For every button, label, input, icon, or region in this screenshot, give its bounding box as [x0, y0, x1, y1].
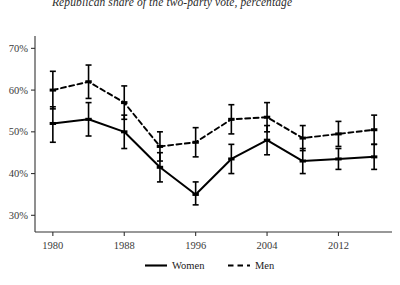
data-point-marker	[335, 132, 341, 135]
chart-legend: WomenMen	[145, 260, 275, 271]
x-tick-label: 2004	[257, 240, 279, 251]
data-point-marker	[228, 118, 234, 121]
data-point-marker	[85, 118, 91, 121]
data-point-marker	[157, 166, 163, 169]
chart-plot-area: 30%40%50%60%70% 19801988199620042012 Wom…	[0, 0, 400, 285]
series-line	[53, 82, 374, 147]
data-point-marker	[192, 141, 198, 144]
y-tick-label: 30%	[9, 210, 29, 221]
x-tick-label: 2012	[328, 240, 349, 251]
data-point-marker	[371, 155, 377, 158]
data-point-marker	[300, 160, 306, 163]
legend-item-men[interactable]: Men	[228, 260, 275, 271]
x-axis: 19801988199620042012	[35, 232, 392, 251]
y-tick-label: 40%	[9, 168, 29, 179]
legend-label: Men	[255, 260, 275, 271]
data-point-marker	[371, 128, 377, 131]
series-line	[53, 119, 374, 194]
series-men	[50, 65, 378, 161]
data-point-marker	[50, 89, 56, 92]
series-women	[50, 103, 378, 205]
data-point-marker	[157, 145, 163, 148]
y-tick-label: 50%	[9, 126, 29, 137]
data-point-marker	[228, 157, 234, 160]
x-tick-label: 1988	[114, 240, 135, 251]
data-point-marker	[50, 122, 56, 125]
x-tick-label: 1996	[185, 240, 206, 251]
y-axis: 30%40%50%60%70%	[9, 36, 35, 232]
legend-label: Women	[172, 260, 205, 271]
data-point-marker	[300, 137, 306, 140]
data-point-marker	[121, 101, 127, 104]
y-tick-label: 60%	[9, 85, 29, 96]
legend-item-women[interactable]: Women	[145, 260, 205, 271]
data-point-marker	[192, 193, 198, 196]
data-point-marker	[121, 130, 127, 133]
data-point-marker	[264, 116, 270, 119]
x-tick-label: 1980	[42, 240, 63, 251]
y-tick-label: 70%	[9, 43, 29, 54]
data-point-marker	[264, 139, 270, 142]
chart-container: Republican share of the two-party vote, …	[0, 0, 400, 285]
data-point-marker	[85, 80, 91, 83]
data-point-marker	[335, 157, 341, 160]
data-series-group	[50, 65, 378, 205]
